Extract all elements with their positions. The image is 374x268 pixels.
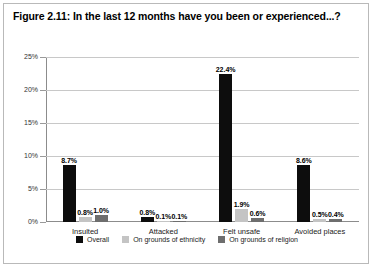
bar-value-label: 8.6% [291, 157, 316, 164]
bar-group: 8.7%0.8%1.0% [46, 57, 124, 222]
bar-value-label: 1.0% [89, 207, 114, 214]
plot-area: 8.7%0.8%1.0%Insulted0.8%0.1%0.1%Attacked… [46, 57, 359, 222]
y-axis-tick-mark [40, 90, 46, 91]
x-axis-category-label: Avoided places [281, 227, 359, 236]
bar-value-label: 8.7% [57, 157, 82, 164]
figure-container: Figure 2.11: In the last 12 months have … [3, 3, 369, 264]
y-axis-tick-label: 10% [4, 152, 38, 159]
legend-item-ethnicity: On grounds of ethnicity [122, 236, 205, 243]
bar-value-label: 0.6% [245, 210, 270, 217]
bar [79, 217, 92, 222]
figure-title: Figure 2.11: In the last 12 months have … [13, 10, 343, 24]
y-axis-tick-mark [40, 222, 46, 223]
y-axis-tick-mark [40, 123, 46, 124]
legend-label-religion: On grounds of religion [229, 236, 298, 243]
legend-item-religion: On grounds of religion [218, 236, 298, 243]
y-axis-tick-label: 25% [4, 53, 38, 60]
bar [329, 219, 342, 222]
bar-value-label: 0.4% [323, 211, 348, 218]
legend-item-overall: Overall [76, 236, 109, 243]
bar-group: 22.4%1.9%0.6% [203, 57, 281, 222]
bar [313, 219, 326, 222]
bar-group: 0.8%0.1%0.1% [124, 57, 202, 222]
y-axis-tick-label: 0% [4, 218, 38, 225]
bar [251, 218, 264, 222]
bar [95, 215, 108, 222]
legend-swatch-icon-religion [218, 236, 225, 243]
bar-value-label: 22.4% [213, 66, 238, 73]
legend-label-ethnicity: On grounds of ethnicity [133, 236, 205, 243]
y-axis-tick-mark [40, 57, 46, 58]
chart-legend: Overall On grounds of ethnicity On groun… [4, 236, 370, 243]
y-axis-tick-label: 20% [4, 86, 38, 93]
y-axis-tick-mark [40, 189, 46, 190]
legend-swatch-icon-overall [76, 236, 83, 243]
bar [173, 221, 186, 223]
bar [219, 74, 232, 222]
x-axis-category-label: Attacked [124, 227, 202, 236]
x-axis-category-label: Felt unsafe [203, 227, 281, 236]
bar [157, 221, 170, 223]
y-axis-tick-label: 5% [4, 185, 38, 192]
legend-label-overall: Overall [87, 236, 109, 243]
legend-swatch-icon-ethnicity [122, 236, 129, 243]
y-axis-tick-mark [40, 156, 46, 157]
bar-group: 8.6%0.5%0.4% [281, 57, 359, 222]
x-axis-category-label: Insulted [46, 227, 124, 236]
bar-value-label: 1.9% [229, 201, 254, 208]
y-axis-tick-label: 15% [4, 119, 38, 126]
bar-value-label: 0.1% [167, 213, 192, 220]
